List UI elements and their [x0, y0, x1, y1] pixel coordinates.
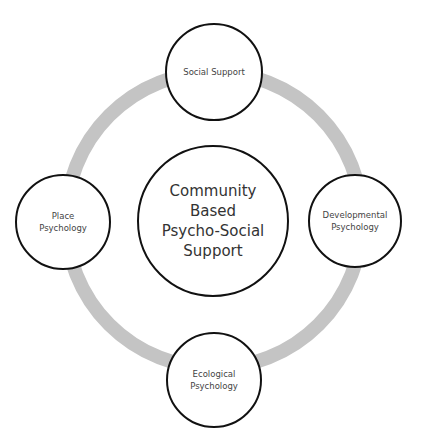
node-label: Ecological	[190, 368, 238, 380]
node-ecological-psychology: Ecological Psychology	[166, 332, 262, 428]
center-node: Community Based Psycho-Social Support	[137, 145, 289, 297]
node-label: Place	[39, 210, 87, 222]
node-social-support: Social Support	[165, 23, 263, 121]
node-place-psychology: Place Psychology	[15, 174, 111, 270]
center-label-line: Based	[162, 201, 265, 221]
node-label: Psychology	[39, 222, 87, 234]
node-label: Developmental	[323, 209, 388, 221]
node-label: Psychology	[323, 221, 388, 233]
node-label: Social Support	[183, 66, 245, 78]
node-label: Psychology	[190, 380, 238, 392]
center-label-line: Community	[162, 181, 265, 201]
node-developmental-psychology: Developmental Psychology	[308, 174, 402, 268]
center-label-line: Support	[162, 241, 265, 261]
center-label-line: Psycho-Social	[162, 221, 265, 241]
